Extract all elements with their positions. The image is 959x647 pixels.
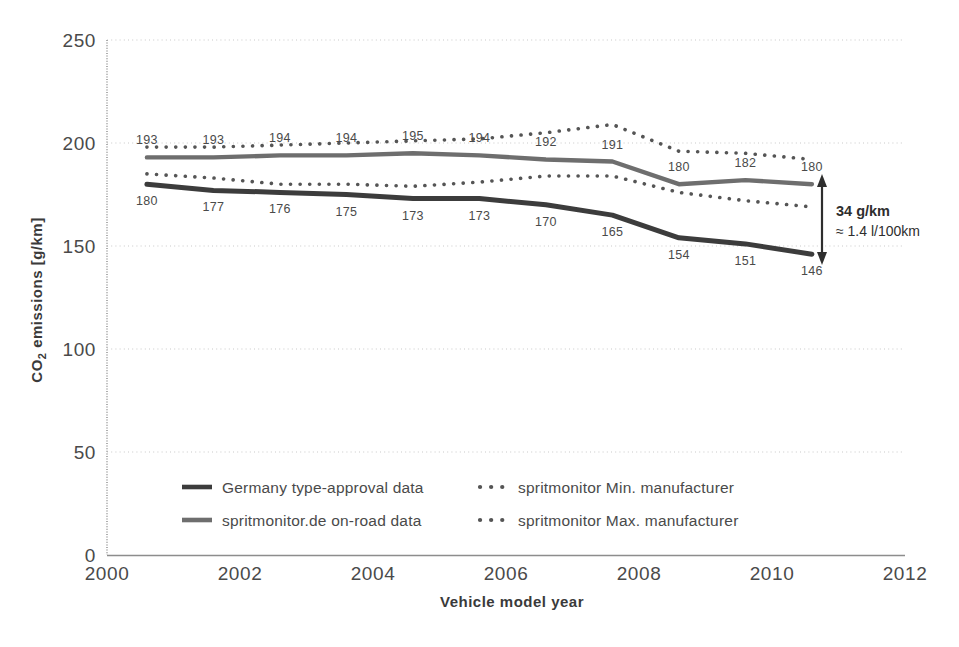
y-axis-title-sub: 2: [36, 353, 48, 360]
y-axis-title-main: CO: [28, 359, 45, 383]
y-tick-100: 100: [62, 339, 96, 360]
chart-container: 050100150200250 200020022004200620082010…: [0, 0, 959, 647]
point-label-0-5: 173: [469, 209, 491, 223]
point-label-0-2: 176: [269, 202, 291, 216]
legend-label-3: spritmonitor Max. manufacturer: [518, 512, 739, 529]
y-tick-50: 50: [74, 442, 96, 463]
point-label-0-7: 165: [602, 225, 624, 239]
legend-label-1: spritmonitor Min. manufacturer: [518, 479, 734, 496]
point-label-1-6: 192: [535, 135, 557, 149]
annotation-line-1: 34 g/km: [836, 203, 890, 219]
y-tick-200: 200: [62, 133, 96, 154]
point-label-1-1: 193: [203, 133, 225, 147]
co2-emissions-line-chart: 050100150200250 200020022004200620082010…: [0, 0, 959, 647]
point-label-1-2: 194: [269, 131, 291, 145]
x-axis-title: Vehicle model year: [440, 593, 584, 610]
chart-background: [0, 0, 959, 647]
point-label-1-10: 180: [801, 160, 823, 174]
point-label-0-10: 146: [801, 264, 823, 278]
point-label-0-9: 151: [735, 254, 757, 268]
point-label-1-7: 191: [602, 138, 624, 152]
point-label-1-0: 193: [136, 133, 158, 147]
y-tick-250: 250: [62, 30, 96, 51]
x-tick-2000: 2000: [85, 563, 130, 584]
legend-label-0: Germany type-approval data: [222, 479, 424, 496]
legend-item-spritmonitor-min[interactable]: spritmonitor Min. manufacturer: [480, 479, 734, 496]
x-tick-2002: 2002: [218, 563, 263, 584]
point-label-0-3: 175: [336, 205, 358, 219]
y-tick-150: 150: [62, 236, 96, 257]
legend-item-spritmonitor-max[interactable]: spritmonitor Max. manufacturer: [480, 512, 739, 529]
point-label-0-6: 170: [535, 215, 557, 229]
point-label-0-8: 154: [668, 248, 690, 262]
x-tick-2012: 2012: [883, 563, 928, 584]
legend-label-2: spritmonitor.de on-road data: [222, 512, 422, 529]
point-label-0-4: 173: [402, 209, 424, 223]
x-tick-2004: 2004: [351, 563, 396, 584]
x-tick-2006: 2006: [484, 563, 529, 584]
x-tick-2010: 2010: [750, 563, 795, 584]
y-axis-title-rest: emissions [g/km]: [28, 217, 45, 352]
point-label-1-4: 195: [402, 129, 424, 143]
point-label-1-8: 180: [668, 160, 690, 174]
point-label-1-9: 182: [735, 156, 757, 170]
annotation-line-2: ≈ 1.4 l/100km: [836, 223, 920, 239]
point-label-1-3: 194: [336, 131, 358, 145]
point-label-1-5: 194: [469, 131, 491, 145]
point-label-0-1: 177: [203, 200, 225, 214]
x-tick-2008: 2008: [617, 563, 662, 584]
point-label-0-0: 180: [136, 194, 158, 208]
